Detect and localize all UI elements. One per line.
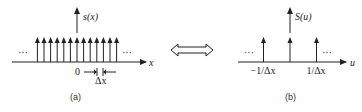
panel-b: u S(u) ··· ··· −1/Δx 1/Δx (b) [238, 7, 355, 102]
fourier-pair-diagram: x s(x) ··· ··· 0 Δx (a) u S(u) ·· [0, 0, 362, 112]
a-impulse [114, 37, 119, 62]
ellipsis-left-b: ··· [244, 47, 254, 58]
b-impulse [314, 37, 319, 62]
a-impulse [48, 37, 53, 62]
s-of-u-label: S(u) [295, 11, 312, 23]
vertical-axis-arrowhead-a [74, 7, 80, 14]
a-impulse [81, 37, 86, 62]
ellipsis-right-b: ··· [322, 47, 332, 58]
vertical-axis-arrowhead-b [287, 7, 293, 14]
x-axis-arrowhead-a [140, 59, 147, 65]
x-axis-label: x [148, 57, 154, 68]
a-impulse [42, 37, 47, 62]
impulse-train-b [261, 37, 319, 62]
a-impulse [68, 37, 73, 62]
a-impulse [94, 37, 99, 62]
b-impulse [288, 37, 293, 62]
ellipsis-left-a: ··· [18, 47, 28, 58]
a-impulse [35, 37, 40, 62]
left-tick-label: −1/Δx [251, 65, 276, 76]
a-impulse [108, 37, 113, 62]
u-axis-arrowhead [340, 59, 347, 65]
u-axis-label: u [350, 57, 355, 68]
origin-label: 0 [75, 66, 80, 77]
impulse-train-a [35, 37, 119, 62]
a-impulse [101, 37, 106, 62]
a-impulse [55, 37, 60, 62]
delta-x-label: Δx [95, 75, 106, 86]
caption-a: (a) [70, 92, 81, 102]
fourier-transform-double-arrow [171, 44, 213, 56]
a-impulse [75, 37, 80, 62]
panel-a: x s(x) ··· ··· 0 Δx (a) [12, 7, 154, 102]
a-impulse [61, 37, 66, 62]
b-impulse [261, 37, 266, 62]
right-tick-label: 1/Δx [306, 65, 325, 76]
caption-b: (b) [285, 92, 296, 102]
s-of-x-label: s(x) [83, 11, 99, 23]
ellipsis-right-a: ··· [122, 47, 132, 58]
a-impulse [88, 37, 93, 62]
